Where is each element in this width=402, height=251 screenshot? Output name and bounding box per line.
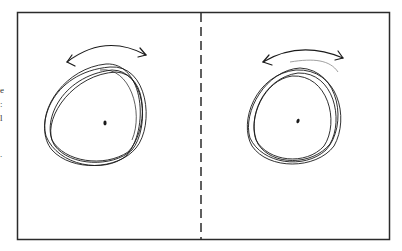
center-dot-icon <box>103 121 106 126</box>
scribbled-loops-icon <box>247 60 341 164</box>
double-headed-curved-arrow-icon <box>263 50 343 65</box>
left-panel <box>45 46 147 166</box>
figure-canvas <box>0 0 402 251</box>
double-headed-curved-arrow-icon <box>67 46 146 66</box>
center-dot-icon <box>296 118 300 123</box>
scribbled-loops-icon <box>45 64 147 166</box>
right-panel <box>247 50 343 164</box>
figure-frame <box>18 13 390 240</box>
